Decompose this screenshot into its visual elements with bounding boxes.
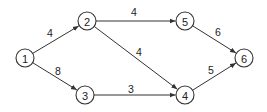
node-label: 3 <box>82 90 88 102</box>
edge-4-6: 5 <box>193 63 236 90</box>
edge-weight-label: 4 <box>47 27 53 39</box>
node-label: 2 <box>84 16 90 28</box>
edge-2-4: 4 <box>94 26 177 89</box>
edges-layer: 4844365 <box>33 6 236 95</box>
edge-weight-label: 5 <box>208 64 214 76</box>
network-canvas: 4844365 123456 <box>0 0 267 112</box>
edge-weight-label: 4 <box>131 6 137 18</box>
node-3: 3 <box>76 86 94 104</box>
node-label: 4 <box>182 90 188 102</box>
node-5: 5 <box>176 12 194 30</box>
edge-arrow-line <box>193 63 236 90</box>
node-2: 2 <box>78 12 96 30</box>
edge-5-6: 6 <box>193 26 236 53</box>
network-diagram: 4844365 123456 <box>0 0 267 112</box>
node-6: 6 <box>235 49 253 67</box>
edge-1-2: 4 <box>33 26 79 54</box>
edge-weight-label: 6 <box>215 26 221 38</box>
edge-weight-label: 3 <box>128 83 134 95</box>
edge-2-5: 4 <box>96 6 176 21</box>
edge-3-4: 3 <box>94 83 176 95</box>
node-label: 6 <box>241 53 247 65</box>
node-1: 1 <box>16 49 34 67</box>
edge-weight-label: 8 <box>55 65 61 77</box>
edge-arrow-line <box>33 26 79 54</box>
node-label: 1 <box>22 53 28 65</box>
node-label: 5 <box>182 16 188 28</box>
edge-weight-label: 4 <box>136 46 142 58</box>
node-4: 4 <box>176 86 194 104</box>
edge-1-3: 8 <box>33 63 77 90</box>
